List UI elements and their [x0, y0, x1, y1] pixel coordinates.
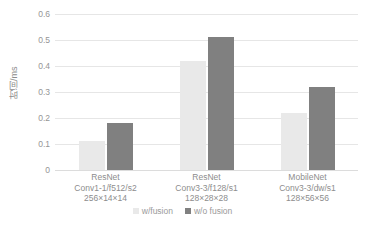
bar-group [257, 14, 358, 170]
x-label-group-2: MobileNet Conv3-3/dw/s1 128×56×56 [257, 172, 358, 204]
bar-groups [55, 14, 358, 170]
y-tick-label: 0.5 [24, 36, 50, 45]
bar-w-fusion[interactable] [79, 141, 105, 170]
y-tick-label: 0.2 [24, 114, 50, 123]
y-tick-label: 0.1 [24, 140, 50, 149]
x-label-line: 128×56×56 [257, 193, 358, 204]
legend-label: w/fusion [142, 207, 173, 216]
legend-swatch-icon [133, 208, 139, 214]
legend-item-w-fusion[interactable]: w/fusion [133, 207, 173, 216]
x-label-line: Conv1-1/f512/s2 [55, 183, 156, 194]
x-label-line: Conv3-3/f128/s1 [156, 183, 257, 194]
y-tick-label: 0.6 [24, 10, 50, 19]
bar-w-fusion[interactable] [281, 113, 307, 170]
legend-item-wo-fusion[interactable]: w/o fusion [185, 207, 232, 216]
x-label-line: 256×14×14 [55, 193, 156, 204]
y-axis-tick-labels: 0.6 0.5 0.4 0.3 0.2 0.1 0 [22, 14, 50, 170]
legend-label: w/o fusion [194, 207, 232, 216]
bar-wo-fusion[interactable] [309, 87, 335, 170]
x-label-line: 128×28×28 [156, 193, 257, 204]
chart-legend: w/fusion w/o fusion [0, 207, 365, 216]
y-axis-title: 时间/ms [2, 48, 24, 118]
legend-swatch-icon [185, 208, 191, 214]
bar-wo-fusion[interactable] [208, 37, 234, 170]
y-tick-label: 0 [24, 166, 50, 175]
bar-wo-fusion[interactable] [107, 123, 133, 170]
axis-baseline [55, 170, 358, 171]
x-axis-labels: ResNet Conv1-1/f512/s2 256×14×14 ResNet … [55, 172, 358, 204]
y-tick-label: 0.4 [24, 62, 50, 71]
x-label-line: Conv3-3/dw/s1 [257, 183, 358, 194]
bar-group [55, 14, 156, 170]
x-label-group-0: ResNet Conv1-1/f512/s2 256×14×14 [55, 172, 156, 204]
x-label-group-1: ResNet Conv3-3/f128/s1 128×28×28 [156, 172, 257, 204]
bar-w-fusion[interactable] [180, 61, 206, 170]
y-tick-label: 0.3 [24, 88, 50, 97]
x-label-line: ResNet [156, 172, 257, 183]
bar-chart: 时间/ms 0.6 0.5 0.4 0.3 0.2 0.1 0 [0, 0, 365, 227]
bar-group [156, 14, 257, 170]
x-label-line: MobileNet [257, 172, 358, 183]
x-label-line: ResNet [55, 172, 156, 183]
